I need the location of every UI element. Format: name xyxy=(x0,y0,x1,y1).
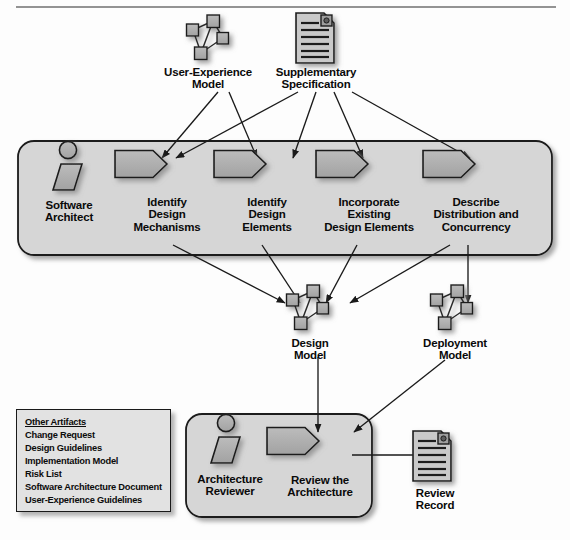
node-graph-icon xyxy=(187,15,229,60)
other-artifacts-box: Other Artifacts Change RequestDesign Gui… xyxy=(16,409,171,512)
diagram-canvas: User-Experience ModelSupplementary Speci… xyxy=(0,0,570,540)
other-artifacts-item: User-Experience Guidelines xyxy=(25,494,163,507)
other-artifacts-item: Risk List xyxy=(25,468,163,481)
other-artifacts-item: Change Request xyxy=(25,429,163,442)
other-artifacts-item: Implementation Model xyxy=(25,455,163,468)
other-artifacts-item: Software Architecture Document xyxy=(25,481,163,494)
node-graph-icon xyxy=(431,285,473,330)
document-icon xyxy=(296,13,334,63)
other-artifacts-item: Design Guidelines xyxy=(25,442,163,455)
other-artifacts-heading: Other Artifacts xyxy=(25,416,163,429)
arrow-deployment-model-to-review xyxy=(354,360,445,432)
document-icon xyxy=(413,431,451,481)
refine-architecture-container xyxy=(18,141,552,255)
other-artifacts-list: Change RequestDesign GuidelinesImplement… xyxy=(25,429,163,507)
